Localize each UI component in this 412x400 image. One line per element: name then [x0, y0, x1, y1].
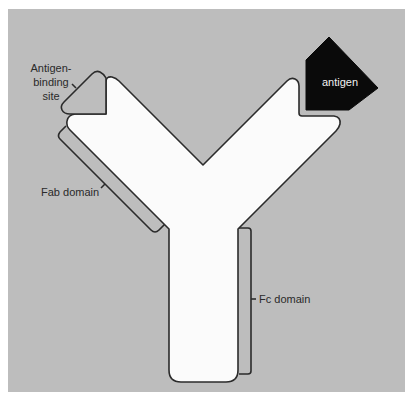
antigen-binding-site-label-line-3: site — [42, 90, 59, 102]
fc-domain-label: Fc domain — [259, 293, 310, 305]
antigen-binding-site-label-line-1: Antigen- — [31, 62, 72, 74]
antigen-label: antigen — [322, 76, 358, 88]
antibody-diagram: Antigen- binding site Fab domain Fc doma… — [0, 0, 412, 400]
antigen-binding-site-label-line-2: binding — [33, 76, 68, 88]
fab-domain-label: Fab domain — [41, 186, 99, 198]
